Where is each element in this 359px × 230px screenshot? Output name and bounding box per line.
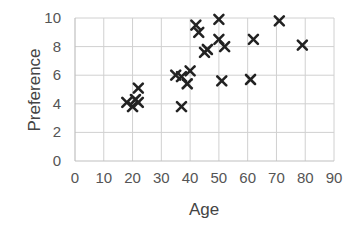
- x-tick-label: 10: [95, 169, 112, 186]
- x-tick-label: 0: [71, 169, 79, 186]
- y-tick-label: 2: [53, 123, 61, 140]
- y-tick-label: 4: [53, 95, 61, 112]
- grid: [75, 18, 334, 161]
- y-axis-title: Preference: [25, 48, 44, 131]
- y-tick-label: 8: [53, 38, 61, 55]
- x-tick-label: 60: [239, 169, 256, 186]
- axes: [75, 18, 334, 161]
- x-marker-icon: [134, 84, 143, 93]
- x-axis-title: Age: [189, 200, 219, 219]
- y-tick-label: 6: [53, 66, 61, 83]
- y-tick-label: 0: [53, 152, 61, 169]
- x-tick-label: 40: [182, 169, 199, 186]
- x-tick-label: 90: [326, 169, 343, 186]
- x-tick-labels: 0102030405060708090: [71, 169, 343, 186]
- x-tick-label: 70: [268, 169, 285, 186]
- x-tick-label: 20: [124, 169, 141, 186]
- scatter-chart: 0102030405060708090 0246810 Age Preferen…: [0, 0, 359, 230]
- data-points: [122, 15, 307, 111]
- x-marker-icon: [249, 35, 258, 44]
- x-tick-label: 80: [297, 169, 314, 186]
- x-tick-label: 30: [153, 169, 170, 186]
- y-tick-label: 10: [44, 9, 61, 26]
- x-tick-label: 50: [211, 169, 228, 186]
- y-tick-labels: 0246810: [44, 9, 61, 169]
